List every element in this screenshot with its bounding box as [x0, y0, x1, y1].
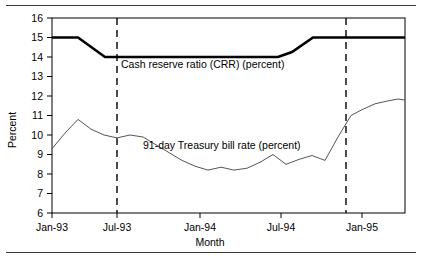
y-tick-label-8: 8	[37, 168, 43, 180]
y-tick-label-13: 13	[31, 70, 43, 82]
series-line-treasury-bill	[52, 99, 405, 170]
y-axis-title: Percent	[6, 112, 18, 148]
y-tick-label-6: 6	[37, 207, 43, 219]
y-tick-label-14: 14	[31, 51, 43, 63]
x-tick-label-jan-95: Jan-95	[346, 221, 378, 233]
chart-svg: 6 7 8 9 10 11 12 13 14 15 16 Percent Jan…	[0, 0, 422, 261]
series-annotation-tbill: 91-day Treasury bill rate (percent)	[143, 139, 301, 151]
y-tick-label-12: 12	[31, 90, 43, 102]
x-tick-label-jul-93: Jul-93	[103, 221, 132, 233]
y-axis-ticks	[47, 18, 52, 213]
chart-figure: 6 7 8 9 10 11 12 13 14 15 16 Percent Jan…	[0, 0, 422, 261]
y-tick-label-11: 11	[32, 109, 43, 121]
series-line-cash-reserve-ratio	[52, 38, 405, 58]
x-tick-label-jul-94: Jul-94	[267, 221, 296, 233]
y-tick-label-10: 10	[31, 129, 43, 141]
y-tick-label-15: 15	[31, 31, 43, 43]
x-axis-title: Month	[195, 236, 224, 248]
y-tick-label-7: 7	[37, 187, 43, 199]
y-tick-label-16: 16	[31, 12, 43, 24]
x-tick-label-jan-93: Jan-93	[36, 221, 68, 233]
y-tick-label-9: 9	[37, 148, 43, 160]
x-axis-ticks	[52, 213, 362, 218]
x-tick-label-jan-94: Jan-94	[184, 221, 216, 233]
series-annotation-crr: Cash reserve ratio (CRR) (percent)	[121, 58, 284, 70]
